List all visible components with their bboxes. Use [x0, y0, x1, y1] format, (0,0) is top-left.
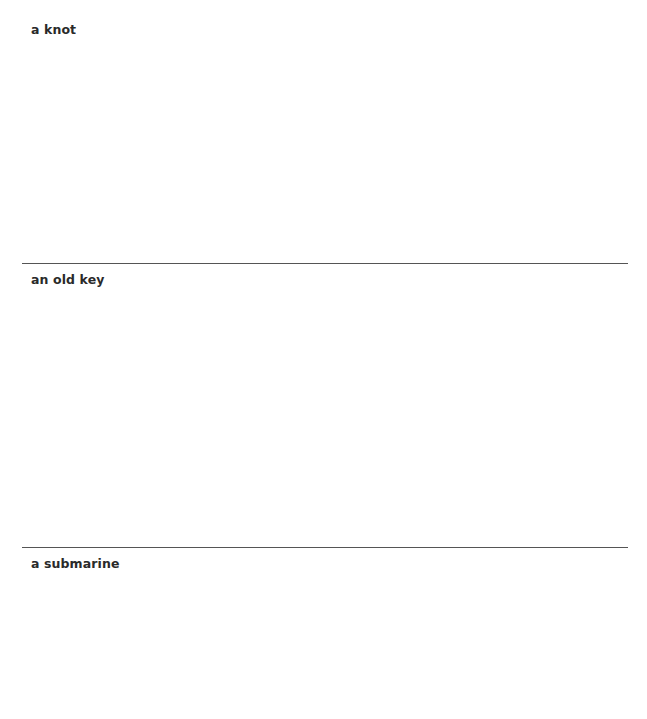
section-label: an old key — [31, 272, 104, 287]
section-3: a submarine — [22, 548, 628, 719]
section-1: a knot — [22, 0, 628, 263]
section-label: a knot — [31, 22, 76, 37]
section-label: a submarine — [31, 556, 119, 571]
section-2: an old key — [22, 264, 628, 547]
